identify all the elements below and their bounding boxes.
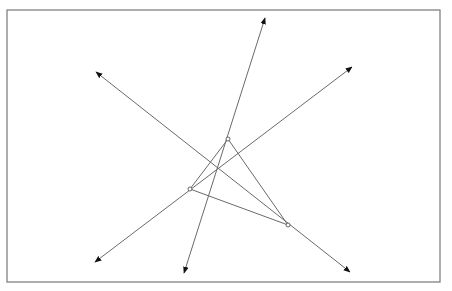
vertex-right	[286, 223, 290, 227]
triangle-edge-top-left	[190, 139, 228, 189]
diagram-canvas	[0, 0, 452, 291]
line-through-left	[95, 67, 352, 262]
diagram-frame	[7, 10, 440, 282]
triangle-edge-top-right	[228, 139, 288, 225]
vertex-top	[226, 137, 230, 141]
vertex-left	[188, 187, 192, 191]
line-through-right	[96, 72, 350, 272]
line-through-top	[184, 18, 265, 273]
